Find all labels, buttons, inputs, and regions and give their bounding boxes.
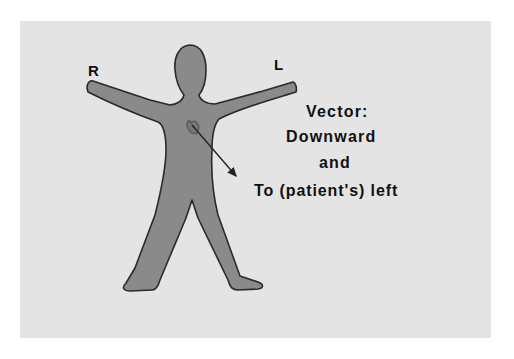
right-side-label: R: [88, 63, 99, 78]
left-side-label: L: [274, 57, 283, 72]
caption-line-1: Vector:: [306, 104, 369, 120]
body-silhouette: [87, 45, 296, 291]
caption-line-2: Downward: [286, 129, 377, 145]
human-figure: [0, 0, 514, 359]
caption-line-3: and: [319, 155, 351, 171]
caption-line-4: To (patient's) left: [254, 183, 398, 199]
